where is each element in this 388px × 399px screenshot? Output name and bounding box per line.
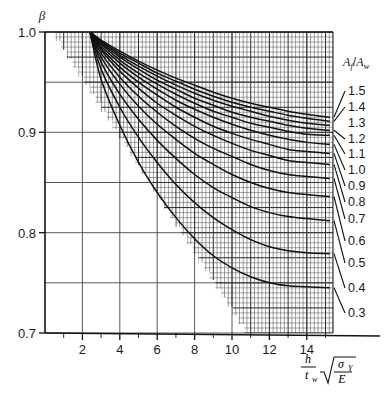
series-label-1-0: 1.0 [348,163,365,177]
chart-container: 0.70.80.91.0 2468101214 1.51.41.31.21.11… [0,0,388,399]
x-tick-label-12: 12 [262,342,276,357]
legend-title-sub2: w [364,61,370,71]
series-label-0-7: 0.7 [348,212,365,226]
beta-reduction-factor-chart: 0.70.80.91.0 2468101214 1.51.41.31.21.11… [0,0,388,399]
y-tick-label-0-9: 0.9 [18,125,36,140]
y-tick-label-1: 1.0 [18,25,36,40]
x-tick-label-2: 2 [79,342,86,357]
y-axis-label: β [38,8,46,23]
series-label-0-4: 0.4 [348,281,365,295]
x-tick-label-6: 6 [154,342,161,357]
series-label-1-4: 1.4 [348,100,365,114]
series-label-1-5: 1.5 [348,84,365,98]
series-label-0-8: 0.8 [348,195,365,209]
x-axis-E: E [337,372,346,386]
series-label-group: 1.51.41.31.21.11.00.90.80.70.60.50.40.3 [348,84,365,320]
series-label-0-3: 0.3 [348,306,365,320]
series-label-0-9: 0.9 [348,179,365,193]
series-label-0-6: 0.6 [348,234,365,248]
series-label-1-2: 1.2 [348,132,365,146]
y-tick-label-0-7: 0.7 [18,326,36,341]
x-tick-label-8: 8 [191,342,198,357]
series-label-1-3: 1.3 [348,116,365,130]
x-tick-label-10: 10 [225,342,239,357]
y-tick-label-0-8: 0.8 [18,226,36,241]
x-tick-label-4: 4 [116,342,123,357]
x-axis-h: h [305,352,311,366]
x-axis-t-sub: w [312,375,318,384]
series-label-0-5: 0.5 [348,256,365,270]
series-label-1-1: 1.1 [348,147,365,161]
